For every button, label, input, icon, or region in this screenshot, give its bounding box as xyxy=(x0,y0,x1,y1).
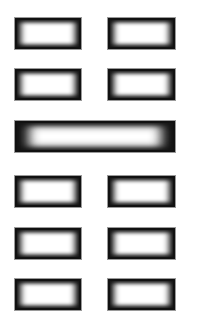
line-3-solid-segment xyxy=(14,120,176,153)
hexagram-figure xyxy=(0,0,199,321)
line-5-left-segment xyxy=(14,227,82,260)
line-2-right-segment xyxy=(107,68,176,101)
line-4-left-segment xyxy=(14,175,82,208)
line-5-right-segment xyxy=(107,227,176,260)
line-6-left-segment xyxy=(14,278,82,311)
line-2-left-segment xyxy=(14,68,82,101)
line-1-left-segment xyxy=(14,17,82,50)
line-1-right-segment xyxy=(107,17,176,50)
line-4-right-segment xyxy=(107,175,176,208)
line-6-right-segment xyxy=(107,278,176,311)
